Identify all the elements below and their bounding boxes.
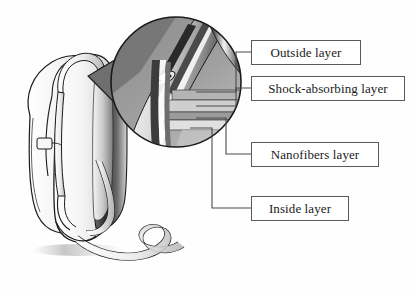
- label-text-nanofibers-layer: Nanofibers layer: [271, 147, 360, 163]
- label-box-nanofibers-layer: Nanofibers layer: [251, 142, 379, 167]
- strap-tag-buckle: [37, 138, 52, 149]
- label-text-inside-layer: Inside layer: [269, 201, 331, 217]
- magnifier-circle-group: [111, 17, 242, 147]
- label-text-outside-layer: Outside layer: [271, 45, 342, 61]
- label-box-outside-layer: Outside layer: [251, 40, 361, 65]
- label-box-shock-absorbing-layer: Shock-absorbing layer: [251, 76, 405, 101]
- label-box-inside-layer: Inside layer: [251, 196, 349, 221]
- label-text-shock-absorbing-layer: Shock-absorbing layer: [268, 81, 387, 97]
